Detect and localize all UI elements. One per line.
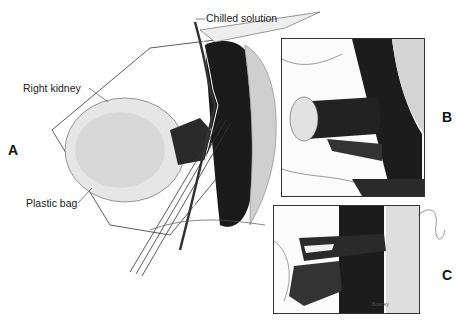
plastic-bag-label: Plastic bag bbox=[26, 198, 77, 209]
suture-thread bbox=[0, 0, 460, 327]
chilled-solution-label: Chilled solution bbox=[206, 13, 277, 24]
panel-letter-a: A bbox=[8, 143, 18, 157]
panel-letter-b: B bbox=[442, 110, 452, 124]
surgical-illustration: Bowrey Chilled solution Right kidney Pla… bbox=[0, 0, 460, 327]
panel-letter-c: C bbox=[442, 268, 452, 282]
right-kidney-label: Right kidney bbox=[23, 83, 81, 94]
